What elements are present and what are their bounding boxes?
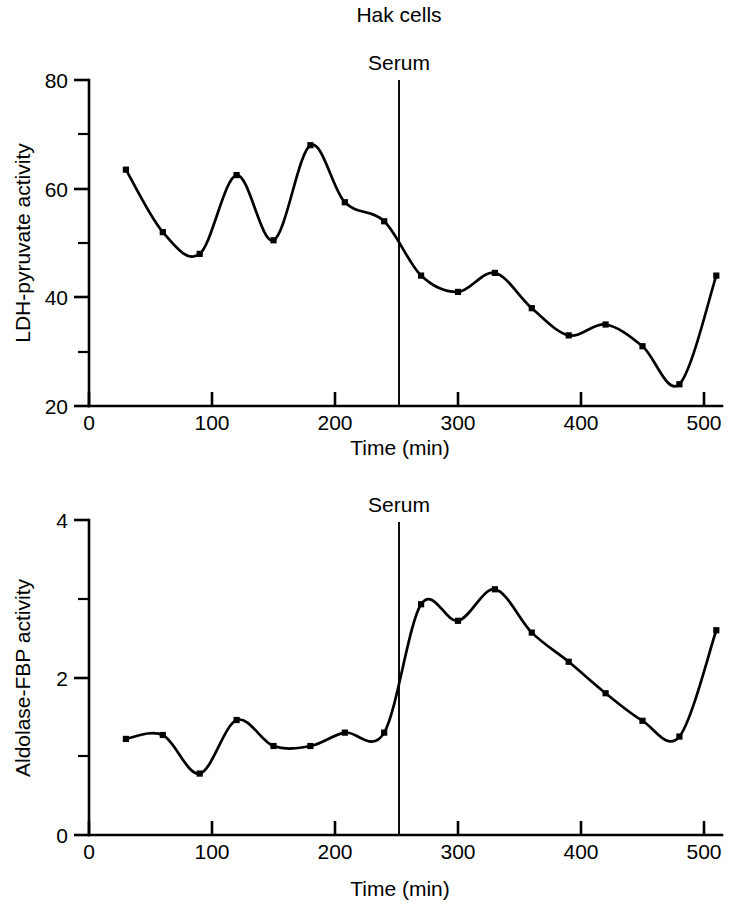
y-tick-label-4-bottom: 4: [56, 509, 68, 532]
x-tick-label-200-top: 200: [317, 411, 352, 434]
x-tick-label-400-top: 400: [563, 411, 598, 434]
x-tick-label-500-top: 500: [686, 411, 721, 434]
data-point-marker: [270, 237, 276, 243]
y-tick-label-60-top: 60: [45, 178, 68, 201]
data-point-marker: [381, 218, 387, 224]
y-tick-label-80-top: 80: [45, 69, 68, 92]
data-point-marker: [307, 743, 313, 749]
data-point-marker: [307, 142, 313, 148]
data-point-marker: [603, 690, 609, 696]
data-point-marker: [603, 321, 609, 327]
chart-panel-ldh-pyruvate: Hak cells Serum 80 60 40 20: [0, 0, 744, 460]
x-tick-label-400-bottom: 400: [563, 840, 598, 863]
aldolase-fbp-data-markers: [123, 586, 720, 776]
x-tick-label-200-bottom: 200: [317, 840, 352, 863]
data-point-marker: [418, 601, 424, 607]
data-point-marker: [455, 289, 461, 295]
data-point-marker: [123, 167, 129, 173]
y-tick-label-0-bottom: 0: [56, 824, 68, 847]
aldolase-fbp-plot: Serum 4 2 0 0 10: [0, 460, 744, 919]
x-tick-label-300-top: 300: [440, 411, 475, 434]
x-axis-ticks-bottom: [89, 821, 704, 835]
data-point-marker: [197, 251, 203, 257]
data-point-marker: [639, 343, 645, 349]
x-tick-label-0-bottom: 0: [83, 840, 95, 863]
data-point-marker: [342, 730, 348, 736]
x-tick-label-100-top: 100: [194, 411, 229, 434]
y-axis-ticks-bottom: [74, 520, 89, 835]
data-point-marker: [529, 305, 535, 311]
serum-annotation-label-top: Serum: [368, 51, 430, 74]
ldh-pyruvate-data-markers: [123, 142, 720, 387]
y-axis-ticks-top: [74, 80, 89, 406]
y-tick-label-2-bottom: 2: [56, 667, 68, 690]
x-axis-ticks-top: [89, 392, 704, 406]
x-tick-label-0-top: 0: [83, 411, 95, 434]
aldolase-fbp-series-line: [126, 589, 716, 773]
data-point-marker: [713, 627, 719, 633]
data-point-marker: [566, 332, 572, 338]
data-point-marker: [492, 586, 498, 592]
data-point-marker: [381, 730, 387, 736]
figure-container: Hak cells Serum 80 60 40 20: [0, 0, 744, 919]
data-point-marker: [418, 273, 424, 279]
data-point-marker: [234, 172, 240, 178]
x-axis-title-bottom: Time (min): [350, 877, 450, 900]
ldh-pyruvate-series-line: [126, 145, 716, 387]
data-point-marker: [197, 770, 203, 776]
chart-panel-aldolase-fbp: Serum 4 2 0 0 10: [0, 460, 744, 919]
data-point-marker: [492, 270, 498, 276]
data-point-marker: [342, 199, 348, 205]
data-point-marker: [455, 618, 461, 624]
figure-title: Hak cells: [356, 3, 441, 26]
data-point-marker: [676, 381, 682, 387]
data-point-marker: [234, 717, 240, 723]
x-tick-label-100-bottom: 100: [194, 840, 229, 863]
x-tick-label-300-bottom: 300: [440, 840, 475, 863]
data-point-marker: [566, 659, 572, 665]
serum-annotation-label-bottom: Serum: [368, 493, 430, 516]
y-tick-label-40-top: 40: [45, 286, 68, 309]
data-point-marker: [713, 273, 719, 279]
y-tick-label-20-top: 20: [45, 395, 68, 418]
y-axis-title-top: LDH-pyruvate activity: [11, 143, 34, 343]
data-point-marker: [676, 733, 682, 739]
y-axis-title-bottom: Aldolase-FBP activity: [11, 578, 34, 777]
data-point-marker: [160, 732, 166, 738]
ldh-pyruvate-plot: Hak cells Serum 80 60 40 20: [0, 0, 744, 460]
data-point-marker: [123, 736, 129, 742]
data-point-marker: [639, 718, 645, 724]
data-point-marker: [160, 229, 166, 235]
x-axis-title-top: Time (min): [350, 436, 450, 459]
data-point-marker: [270, 743, 276, 749]
data-point-marker: [529, 630, 535, 636]
x-tick-label-500-bottom: 500: [686, 840, 721, 863]
